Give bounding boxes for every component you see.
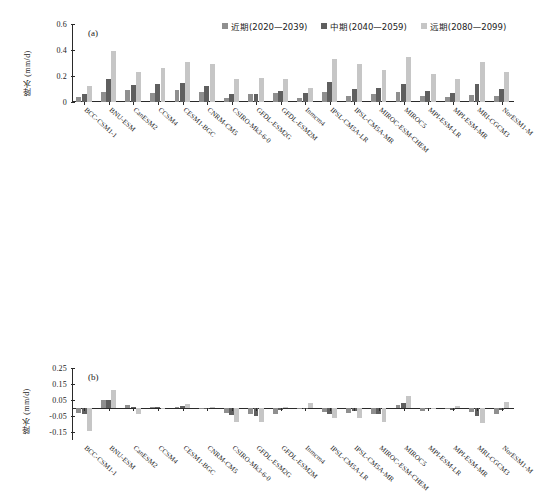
bar bbox=[234, 408, 239, 422]
bar bbox=[76, 97, 81, 102]
y-tick-label: 0.05 bbox=[52, 396, 67, 405]
bar bbox=[125, 405, 130, 408]
bar bbox=[396, 92, 401, 102]
bar bbox=[180, 83, 185, 103]
y-tick bbox=[71, 50, 75, 51]
bar bbox=[308, 88, 313, 102]
x-tick bbox=[232, 408, 233, 411]
bar bbox=[297, 408, 302, 409]
bar bbox=[111, 390, 116, 408]
bar bbox=[273, 408, 278, 414]
bar bbox=[106, 79, 111, 102]
bar bbox=[431, 408, 436, 409]
bar bbox=[431, 74, 436, 102]
bar bbox=[161, 408, 166, 409]
bar bbox=[504, 402, 509, 408]
x-tick-label: CCSM4 bbox=[157, 444, 180, 466]
y-tick bbox=[71, 416, 75, 417]
bar bbox=[136, 72, 141, 102]
bar bbox=[234, 79, 239, 102]
bar bbox=[150, 93, 155, 102]
bar bbox=[297, 98, 302, 102]
bar bbox=[254, 94, 259, 102]
bar bbox=[224, 98, 229, 102]
bar bbox=[210, 407, 215, 408]
y-tick-label: -0.05 bbox=[49, 412, 67, 421]
y-tick-label: 0 bbox=[63, 98, 67, 107]
bar bbox=[322, 408, 327, 412]
bar bbox=[396, 405, 401, 408]
bar bbox=[357, 64, 362, 102]
bar bbox=[185, 404, 190, 408]
panel-b: 降水 (mm/d) (b) -0.15-0.050.050.150.25 BCC… bbox=[0, 172, 526, 343]
bar bbox=[401, 84, 406, 102]
x-tick bbox=[281, 408, 282, 411]
bar bbox=[308, 403, 313, 408]
bar bbox=[382, 70, 387, 103]
panel-b-bars bbox=[72, 368, 514, 440]
bar bbox=[445, 97, 450, 102]
bar bbox=[346, 96, 351, 103]
bar bbox=[175, 90, 180, 102]
bar bbox=[322, 92, 327, 102]
x-tick bbox=[428, 408, 429, 411]
y-tick-label: -0.15 bbox=[49, 428, 67, 437]
bar bbox=[494, 408, 499, 414]
bar bbox=[131, 85, 136, 102]
bar bbox=[469, 408, 474, 412]
y-tick-label: 0.25 bbox=[52, 364, 67, 373]
y-tick-label: 0.2 bbox=[56, 72, 67, 81]
x-tick bbox=[330, 408, 331, 411]
bar bbox=[450, 93, 455, 102]
bar bbox=[185, 62, 190, 102]
x-tick-label: Inmcm4 bbox=[304, 444, 327, 466]
bar bbox=[161, 68, 166, 102]
bar bbox=[504, 72, 509, 102]
y-tick-label: 0.6 bbox=[56, 20, 67, 29]
bar bbox=[82, 94, 87, 102]
x-tick bbox=[379, 408, 380, 411]
bar bbox=[111, 51, 116, 102]
bar bbox=[175, 407, 180, 408]
panel-a-x-tick-labels: BCC-CSM1-1BNU-ESMCanESM2CCSM4CESM1-BGCCN… bbox=[72, 104, 514, 164]
bar bbox=[259, 408, 264, 422]
bar bbox=[101, 400, 106, 408]
bar bbox=[406, 57, 411, 103]
bar bbox=[136, 408, 141, 414]
x-tick bbox=[84, 408, 85, 411]
bar bbox=[357, 408, 362, 418]
bar bbox=[106, 400, 111, 408]
bar bbox=[87, 408, 92, 431]
bar bbox=[469, 95, 474, 102]
panel-a-bars bbox=[72, 24, 514, 102]
panel-b-x-tick-labels: BCC-CSM1-1BNU-ESMCanESM2CCSM4CESM1-BGCCN… bbox=[72, 442, 514, 495]
bar bbox=[332, 59, 337, 102]
bar bbox=[278, 91, 283, 102]
bar bbox=[199, 92, 204, 102]
bar bbox=[425, 91, 430, 102]
bar bbox=[352, 89, 357, 102]
y-tick bbox=[71, 368, 75, 369]
bar bbox=[76, 408, 81, 413]
bar bbox=[204, 86, 209, 102]
bar bbox=[371, 408, 376, 414]
x-tick-label: CCSM4 bbox=[157, 106, 180, 128]
bar bbox=[273, 93, 278, 102]
bar bbox=[248, 408, 253, 414]
x-tick bbox=[354, 408, 355, 411]
y-tick bbox=[71, 384, 75, 385]
bar bbox=[259, 78, 264, 102]
bar bbox=[494, 96, 499, 103]
bar bbox=[224, 408, 229, 413]
y-tick bbox=[71, 24, 75, 25]
x-tick bbox=[133, 408, 134, 411]
x-tick bbox=[305, 408, 306, 411]
bar bbox=[455, 79, 460, 102]
bar bbox=[283, 79, 288, 102]
panel-a-y-axis-label: 降水 (mm/d) bbox=[22, 36, 33, 96]
x-tick bbox=[109, 408, 110, 411]
bar bbox=[475, 84, 480, 102]
bar bbox=[248, 94, 253, 102]
bar bbox=[382, 408, 387, 422]
